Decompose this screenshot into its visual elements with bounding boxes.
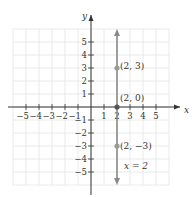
x-tick-label: −5 [16,111,29,121]
y-tick-label: −4 [74,154,87,164]
y-tick-label: 1 [82,89,87,99]
x-tick-label: 4 [140,111,145,121]
y-tick-label: 5 [82,37,87,47]
arrow-up-icon [114,29,120,36]
point-label-2-0: (2, 0) [120,93,144,103]
x-axis-arrow-icon [174,105,180,110]
data-point [114,65,119,70]
arrow-down-icon [114,178,120,185]
y-axis-label: y [81,11,88,21]
x-tick-label: 1 [101,111,106,121]
data-point [114,104,119,109]
data-point [114,143,119,148]
y-tick-label: −2 [74,128,87,138]
x-tick-label: 5 [153,111,158,121]
point-label-2-3: (2, 3) [120,61,144,71]
coordinate-plane: −5−4−3−2−11234554321−1−2−3−4−5 x y (2, 3… [0,0,193,197]
equation-label: x = 2 [124,161,148,171]
y-tick-label: 4 [82,50,87,60]
x-tick-label: −2 [55,111,68,121]
y-tick-label: 3 [82,63,87,73]
y-tick-label: −1 [74,115,87,125]
x-tick-label: −3 [42,111,55,121]
x-axis-label: x [184,105,189,115]
y-tick-label: −3 [74,141,87,151]
y-tick-label: 2 [82,76,87,86]
y-axis-arrow-icon [89,15,94,21]
x-tick-label: −4 [29,111,42,121]
y-tick-label: −5 [74,167,87,177]
point-label-2-neg3: (2, −3) [120,141,152,151]
x-tick-label: 3 [127,111,132,121]
